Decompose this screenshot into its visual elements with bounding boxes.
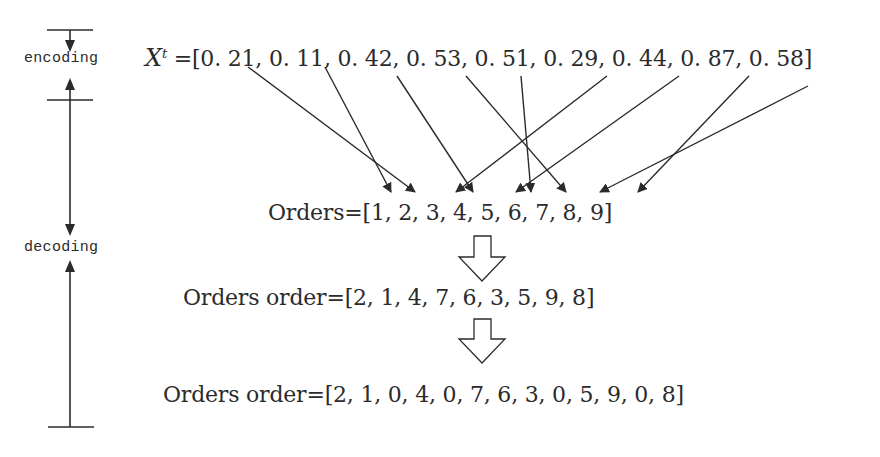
decoding-label: decoding [24, 239, 98, 256]
mapping-arrows [248, 67, 808, 192]
xt-row: Xt =[0. 21, 0. 11, 0. 42, 0. 53, 0. 51, … [145, 44, 812, 72]
decoding-arrow-down-head-icon [65, 224, 75, 236]
timeline [47, 30, 94, 427]
encoding-label: encoding [24, 50, 98, 67]
orders-row: Orders=[1, 2, 3, 4, 5, 6, 7, 8, 9] [268, 200, 612, 225]
xt-values: 0. 21, 0. 11, 0. 42, 0. 53, 0. 51, 0. 29… [200, 46, 812, 71]
arrow-0.51-to-6 [521, 76, 531, 192]
arrow-0.11-to-1 [325, 67, 391, 192]
hollow-down-arrow-icon-1 [459, 236, 505, 281]
encoding-decoding-diagram: encoding decoding Xt =[0. 21, 0. 11, 0. … [0, 0, 880, 457]
xt-prefix: =[ [167, 46, 200, 71]
orders-order-padded-row: Orders order=[2, 1, 0, 4, 0, 7, 6, 3, 0,… [163, 382, 684, 407]
xt-variable: X [145, 44, 162, 72]
decoding-arrow-up-head-icon [65, 260, 75, 272]
arrow-0.53-to-7 [466, 76, 566, 192]
encoding-arrow-up-head-icon [65, 78, 75, 90]
arrow-0.21-to-2 [248, 67, 415, 192]
hollow-down-arrow-icon-2 [459, 319, 505, 363]
arrow-0.29-to-3 [456, 76, 607, 192]
arrow-0.58-to-8 [600, 86, 808, 192]
orders-order-row: Orders order=[2, 1, 4, 7, 6, 3, 5, 9, 8] [183, 285, 594, 310]
arrow-0.42-to-4 [397, 76, 473, 192]
